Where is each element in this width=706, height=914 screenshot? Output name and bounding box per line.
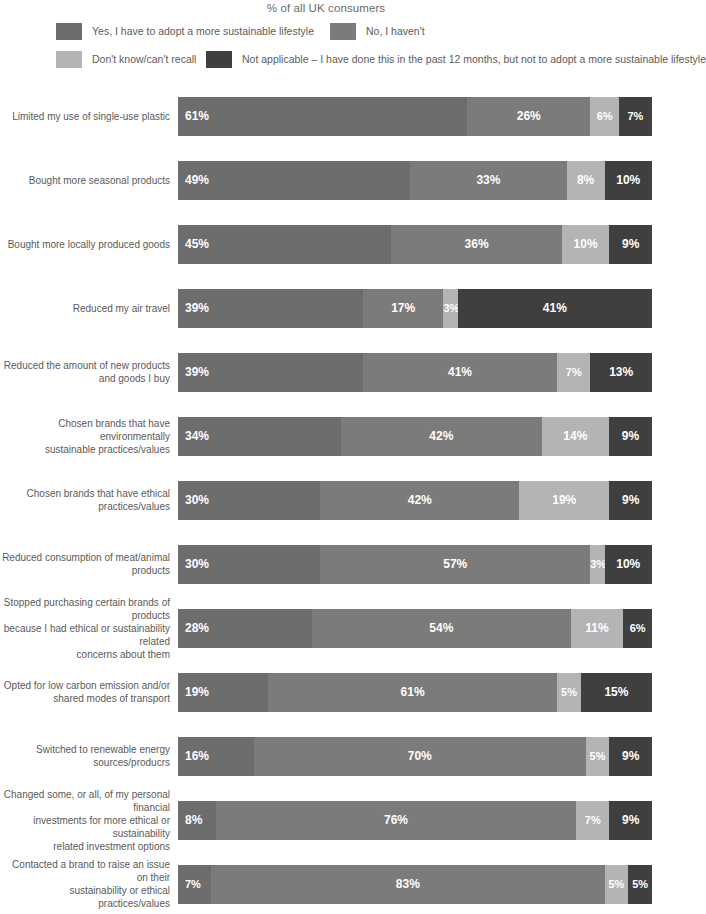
legend-item-no[interactable]: No, I haven't [330,23,425,40]
bar-segment-value: 10% [605,557,652,571]
legend-item-notapplicable[interactable]: Not applicable – I have done this in the… [206,51,706,68]
row-category-label-line: Reduced consumption of meat/animal produ… [0,551,170,577]
bar-segment[interactable]: 57% [320,545,590,584]
bar-segment[interactable]: 5% [586,737,610,776]
bar-segment-value: 8% [178,813,216,827]
bar-segment[interactable]: 9% [609,737,652,776]
bar-segment[interactable]: 54% [312,609,571,648]
bar-segment-value: 70% [254,749,586,763]
bar-segment[interactable]: 42% [341,417,542,456]
bar-segment[interactable]: 3% [590,545,604,584]
bar-segment-value: 49% [178,173,410,187]
row-category-label: Reduced consumption of meat/animal produ… [0,551,178,577]
bar-segment[interactable]: 7% [576,801,609,840]
row-category-label-line: because I had ethical or sustainability … [0,622,170,648]
bar-segment[interactable]: 36% [391,225,562,264]
bar-segment-value: 33% [410,173,566,187]
stacked-bar: 39%17%3%41% [178,289,652,328]
row-category-label: Reduced my air travel [0,302,178,315]
bar-segment[interactable]: 5% [605,865,629,904]
bar-segment[interactable]: 17% [363,289,444,328]
bar-segment[interactable]: 9% [609,801,652,840]
chart-row: Chosen brands that have environmentallys… [0,404,652,468]
bar-segment[interactable]: 7% [619,97,652,136]
legend-item-dontknow[interactable]: Don't know/can't recall [56,51,196,68]
bar-segment[interactable]: 30% [178,545,320,584]
chart-row: Switched to renewable energy sources/pro… [0,724,652,788]
row-category-label-line: Stopped purchasing certain brands of pro… [0,596,170,622]
row-category-label: Opted for low carbon emission and/orshar… [0,679,178,705]
row-category-label: Reduced the amount of new productsand go… [0,359,178,385]
stacked-bar: 45%36%10%9% [178,225,652,264]
chart-row: Reduced the amount of new productsand go… [0,340,652,404]
bar-segment[interactable]: 28% [178,609,312,648]
chart-row: Limited my use of single-use plastic61%2… [0,84,652,148]
bar-segment[interactable]: 6% [623,609,652,648]
row-category-label: Bought more locally produced goods [0,238,178,251]
bar-segment[interactable]: 8% [567,161,605,200]
bar-segment-value: 41% [363,365,557,379]
bar-segment[interactable]: 10% [562,225,609,264]
bar-segment[interactable]: 83% [211,865,604,904]
bar-segment[interactable]: 41% [458,289,652,328]
bar-segment[interactable]: 5% [557,673,581,712]
row-category-label-line: sustainable practices/values [0,443,170,456]
bar-segment[interactable]: 10% [605,545,652,584]
row-category-label-line: Reduced the amount of new products [0,359,170,372]
bar-segment[interactable]: 14% [542,417,609,456]
bar-segment-value: 83% [211,877,604,891]
bar-segment[interactable]: 30% [178,481,320,520]
bar-segment-value: 57% [320,557,590,571]
bar-segment[interactable]: 70% [254,737,586,776]
bar-segment-value: 39% [178,301,363,315]
bar-segment[interactable]: 16% [178,737,254,776]
bar-segment[interactable]: 6% [590,97,618,136]
bar-segment[interactable]: 13% [590,353,652,392]
bar-segment[interactable]: 45% [178,225,391,264]
row-category-label-line: Bought more seasonal products [0,174,170,187]
bar-segment[interactable]: 61% [268,673,557,712]
legend-swatch-yes-icon [56,23,82,40]
bar-segment[interactable]: 9% [609,481,652,520]
bar-segment-value: 14% [542,429,609,443]
bar-segment[interactable]: 15% [581,673,652,712]
bar-segment[interactable]: 39% [178,289,363,328]
bar-segment[interactable]: 5% [628,865,652,904]
bar-segment[interactable]: 42% [320,481,519,520]
bar-segment[interactable]: 34% [178,417,341,456]
bar-segment[interactable]: 11% [571,609,624,648]
bar-segment-value: 17% [363,301,444,315]
row-category-label-line: Chosen brands that have ethical practice… [0,487,170,513]
bar-segment[interactable]: 3% [443,289,457,328]
bar-segment-value: 45% [178,237,391,251]
stacked-bar: 34%42%14%9% [178,417,652,456]
bar-segment[interactable]: 19% [178,673,268,712]
row-category-label-line: and goods I buy [0,372,170,385]
bar-segment[interactable]: 8% [178,801,216,840]
bar-segment[interactable]: 39% [178,353,363,392]
legend-label: Yes, I have to adopt a more sustainable … [92,26,314,37]
bar-segment-value: 42% [320,493,519,507]
bar-segment[interactable]: 41% [363,353,557,392]
bar-segment[interactable]: 9% [609,225,652,264]
row-category-label-line: Changed some, or all, of my personal fin… [0,788,170,814]
bar-segment[interactable]: 26% [467,97,590,136]
bar-segment[interactable]: 61% [178,97,467,136]
row-category-label: Chosen brands that have ethical practice… [0,487,178,513]
bar-segment-value: 11% [571,621,624,635]
bar-segment[interactable]: 7% [178,865,211,904]
bar-segment-value: 39% [178,365,363,379]
legend-item-yes[interactable]: Yes, I have to adopt a more sustainable … [56,23,314,40]
bar-segment[interactable]: 19% [519,481,609,520]
bar-segment-value: 3% [590,558,604,570]
bar-segment[interactable]: 9% [609,417,652,456]
bar-segment[interactable]: 33% [410,161,566,200]
bar-segment[interactable]: 7% [557,353,590,392]
bar-segment[interactable]: 10% [605,161,652,200]
bar-segment[interactable]: 49% [178,161,410,200]
bar-segment-value: 7% [178,878,211,890]
bar-segment[interactable]: 76% [216,801,576,840]
bar-segment-value: 7% [557,366,590,378]
legend-swatch-no-icon [330,23,356,40]
chart-title: % of all UK consumers [0,2,652,14]
